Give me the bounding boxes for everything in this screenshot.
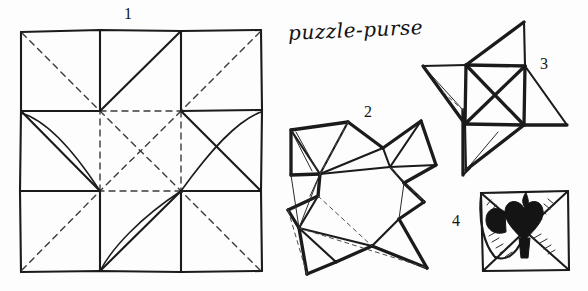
figure-3-central-diagonals: [465, 65, 525, 125]
figure-4-heart-motif: [486, 192, 543, 258]
figure-3-label: 3: [540, 56, 548, 72]
figure-1-label: 1: [124, 6, 132, 22]
figure-1-crease-pattern: [20, 30, 262, 272]
figure-4-label: 4: [452, 213, 460, 229]
figure-3-pinwheel-form: [423, 22, 567, 175]
figure-2-partially-folded-star: [288, 121, 436, 274]
figure-1-inner-diagonals: [100, 111, 181, 191]
illustration-page: puzzle-purse 1 2 3 4: [0, 0, 588, 291]
figure-4-finished-purse: [480, 191, 569, 271]
figure-2-outline: [288, 121, 436, 274]
figure-2-label: 2: [364, 104, 372, 120]
